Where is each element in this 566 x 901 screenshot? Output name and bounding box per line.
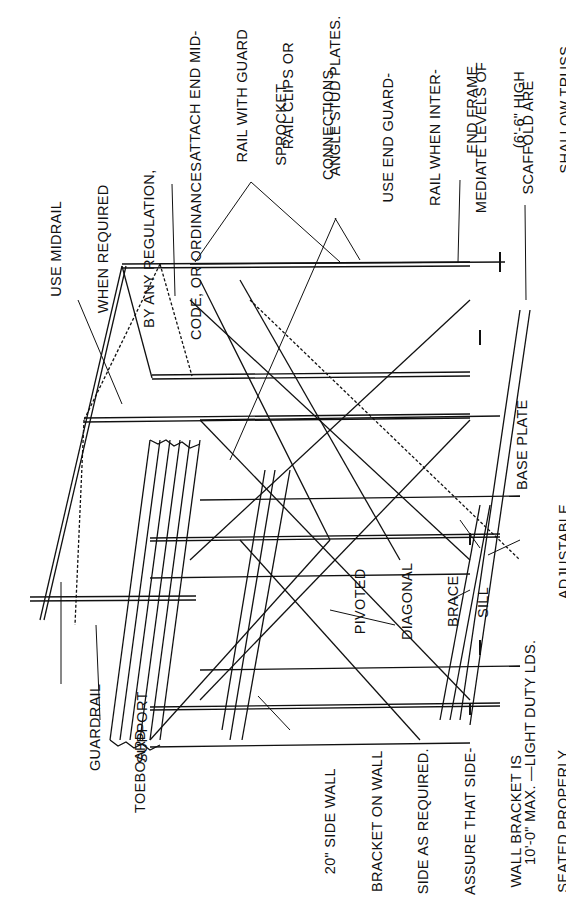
label-span-limits: 10'-0" MAX. —LIGHT DUTY LDS. 8'-0" MAX. … <box>492 640 566 865</box>
side-bracket-plank <box>222 470 290 740</box>
label-end-frame: END FRAME (6'-6" HIGH SHALLOW TRUSS FRAM… <box>434 29 566 190</box>
label-toeboard: TOEBOARD <box>102 729 164 813</box>
label-base-plate: BASE PLATE <box>484 399 546 490</box>
label-midrail: USE MIDRAIL WHEN REQUIRED BY ANY REGULAT… <box>18 158 220 340</box>
label-adjustable-extension-leg: ADJUSTABLE EXTENSION LEG <box>526 491 566 612</box>
cross-braces <box>150 280 520 740</box>
label-sill: SILL <box>445 587 507 618</box>
label-five-foot-max: 5'-0" MAX. <box>540 209 566 280</box>
label-sprocket-connections: SPROCKET CONNECTIONS <box>243 70 352 180</box>
